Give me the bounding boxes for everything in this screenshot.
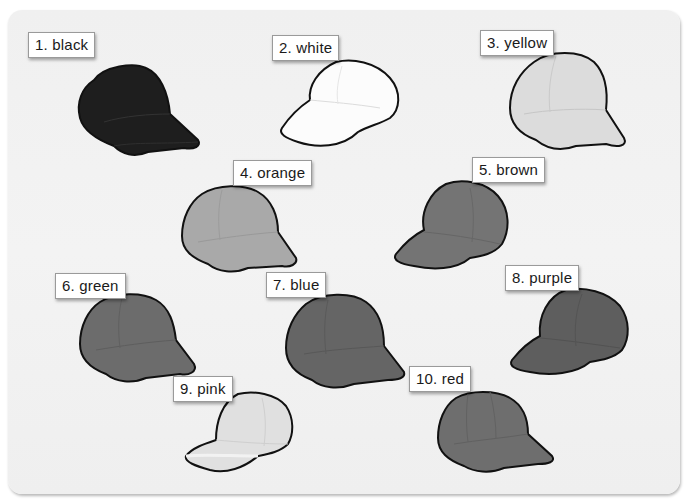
label-yellow: 3. yellow [480, 30, 554, 56]
label-green: 6. green [55, 273, 126, 299]
cap-purple-icon [506, 286, 632, 378]
cap-pink-icon [182, 390, 302, 476]
label-red: 10. red [409, 366, 471, 392]
cap-blue-icon [282, 292, 410, 390]
cap-brown-icon [390, 178, 514, 274]
cap-yellow [506, 48, 634, 152]
cap-blue [282, 292, 410, 390]
cap-purple [506, 286, 632, 378]
label-pink: 9. pink [173, 376, 233, 402]
cap-black [74, 62, 206, 162]
label-purple: 8. purple [505, 265, 579, 291]
cap-yellow-icon [506, 48, 634, 152]
cap-red [434, 390, 558, 476]
label-brown: 5. brown [472, 157, 545, 183]
cap-pink [182, 390, 302, 476]
cap-white [276, 56, 406, 156]
cap-brown [390, 178, 514, 274]
cap-orange [178, 184, 302, 274]
label-black: 1. black [28, 32, 95, 58]
cap-orange-icon [178, 184, 302, 274]
label-orange: 4. orange [233, 160, 312, 186]
cap-red-icon [434, 390, 558, 476]
cap-black-icon [74, 62, 206, 162]
cap-green [76, 292, 200, 384]
cap-white-icon [276, 56, 406, 156]
label-blue: 7. blue [266, 272, 326, 298]
illustration-panel: 1. black 2. white 3. yellow 4. orange [8, 10, 680, 494]
label-white: 2. white [272, 35, 339, 61]
cap-green-icon [76, 292, 200, 384]
